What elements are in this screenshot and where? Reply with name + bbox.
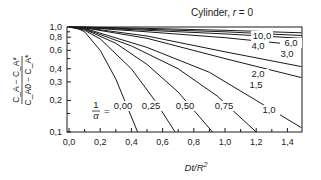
svg-text:0,0: 0,0 xyxy=(63,137,76,147)
svg-text:1,4: 1,4 xyxy=(281,137,294,147)
curve-label-0.75: 0,75 xyxy=(215,100,234,111)
svg-text:0,8: 0,8 xyxy=(188,137,201,147)
svg-text:1,0: 1,0 xyxy=(219,137,232,147)
svg-text:C_A − C_A*: C_A − C_A* xyxy=(11,57,21,103)
svg-text:0,6: 0,6 xyxy=(49,45,62,55)
chart-title: Cylinder, r = 0 xyxy=(191,7,253,18)
svg-text:1,0: 1,0 xyxy=(49,22,62,32)
curve-label-1.5: 1,5 xyxy=(249,79,262,90)
curve-label-0.25: 0,25 xyxy=(142,100,161,111)
curve-label-4.0: 4,0 xyxy=(251,40,264,51)
svg-text:0,3: 0,3 xyxy=(49,77,62,87)
svg-text:0,1: 0,1 xyxy=(49,127,62,137)
svg-text:0,2: 0,2 xyxy=(94,137,107,147)
svg-text:0,4: 0,4 xyxy=(125,137,138,147)
curve-labels: 0,000,250,500,751,01,52,03,04,06,010,01α… xyxy=(92,30,302,122)
chart-figure: Cylinder, r = 0 C_A − C_A*C_A0 − C_A* 1,… xyxy=(0,0,321,180)
curve-label-10.0: 10,0 xyxy=(253,30,272,41)
curve-label-0.50: 0,50 xyxy=(176,100,195,111)
curve-0.50 xyxy=(69,27,213,132)
curve-label-3.0: 3,0 xyxy=(280,48,293,59)
curve-label-2.0: 2,0 xyxy=(251,68,264,79)
y-axis-label: C_A − C_A*C_A0 − C_A* xyxy=(11,54,33,105)
svg-text:C_A0 − C_A*: C_A0 − C_A* xyxy=(23,54,33,105)
svg-text:0,2: 0,2 xyxy=(49,95,62,105)
y-axis-ticks: 1,00,80,60,40,30,20,1 xyxy=(49,22,71,137)
svg-text:0,4: 0,4 xyxy=(49,64,62,74)
x-axis-ticks: 0,00,20,40,60,81,01,21,4 xyxy=(63,128,294,147)
curve-label-6.0: 6,0 xyxy=(284,37,297,48)
param-alpha: α xyxy=(93,110,99,121)
svg-text:0,6: 0,6 xyxy=(156,137,169,147)
param-numerator: 1 xyxy=(93,99,98,110)
svg-text:1,2: 1,2 xyxy=(250,137,263,147)
curve-label-1.0: 1,0 xyxy=(262,104,275,115)
param-equals: = xyxy=(104,105,110,116)
x-axis-label: Dt/R2 xyxy=(185,161,208,173)
svg-text:0,8: 0,8 xyxy=(49,32,62,42)
curve-label-0.00: 0,00 xyxy=(114,100,133,111)
